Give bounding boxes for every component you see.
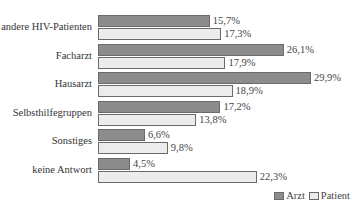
legend-swatch-arzt — [274, 192, 284, 200]
value-label: 29,9% — [314, 72, 341, 84]
bar-patient — [98, 142, 168, 154]
legend-label-arzt: Arzt — [286, 190, 305, 201]
value-label: 15,7% — [213, 15, 240, 27]
bar-arzt — [98, 129, 145, 141]
value-label: 22,3% — [260, 171, 287, 183]
bar-patient — [98, 57, 225, 69]
category-label: Sonstiges — [52, 135, 92, 147]
bar-arzt — [98, 15, 210, 27]
bar-patient — [98, 28, 221, 40]
legend-item-arzt: Arzt — [274, 190, 305, 201]
value-label: 6,6% — [148, 129, 170, 141]
legend: Arzt Patient — [274, 190, 350, 201]
legend-swatch-patient — [309, 192, 319, 200]
bar-patient — [98, 85, 233, 97]
legend-label-patient: Patient — [321, 190, 350, 201]
category-label: Facharzt — [56, 50, 92, 62]
value-label: 17,3% — [224, 28, 251, 40]
value-label: 17,2% — [223, 101, 250, 113]
bar-chart: andere HIV-Patienten15,7%17,3%Facharzt26… — [0, 0, 358, 209]
value-label: 9,8% — [171, 142, 193, 154]
bar-arzt — [98, 72, 311, 84]
category-label: andere HIV-Patienten — [1, 21, 92, 33]
category-label: keine Antwort — [32, 164, 92, 176]
bar-arzt — [98, 44, 284, 56]
value-label: 18,9% — [236, 85, 263, 97]
bar-arzt — [98, 101, 220, 113]
value-label: 4,5% — [133, 158, 155, 170]
legend-item-patient: Patient — [309, 190, 350, 201]
bar-patient — [98, 114, 196, 126]
value-label: 26,1% — [287, 44, 314, 56]
bar-arzt — [98, 158, 130, 170]
bar-patient — [98, 171, 257, 183]
value-label: 13,8% — [199, 114, 226, 126]
value-label: 17,9% — [228, 57, 255, 69]
category-label: Hausarzt — [55, 78, 92, 90]
category-label: Selbsthilfegruppen — [13, 107, 92, 119]
